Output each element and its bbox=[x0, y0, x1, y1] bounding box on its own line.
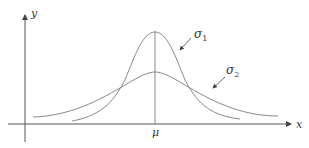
sigma2-arrow bbox=[213, 77, 225, 88]
sigma2-label: σ2 bbox=[226, 63, 239, 79]
mean-label: μ bbox=[152, 126, 159, 139]
x-axis-label: x bbox=[296, 118, 303, 131]
y-axis-label: y bbox=[30, 7, 38, 20]
sigma1-arrow bbox=[180, 38, 191, 50]
normal-curves-diagram: y x μ σ1 σ2 bbox=[0, 0, 309, 148]
sigma1-label: σ1 bbox=[194, 27, 207, 43]
sigma1-curve bbox=[72, 32, 240, 121]
